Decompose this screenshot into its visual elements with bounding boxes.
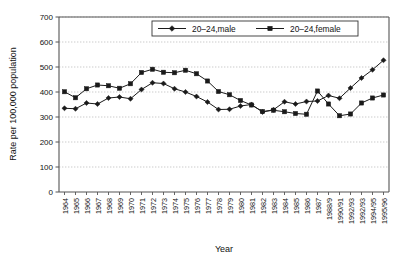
data-point-marker (348, 112, 352, 116)
data-point-marker (205, 79, 209, 83)
data-point-marker (315, 98, 320, 103)
x-tick-label: 1973 (160, 198, 169, 214)
x-tick-label: 1972 (149, 198, 158, 214)
y-tick-label: 700 (40, 13, 54, 22)
data-point-marker (73, 96, 77, 100)
data-point-marker (172, 71, 176, 75)
data-point-marker (359, 101, 363, 105)
data-point-marker (117, 86, 121, 90)
data-point-marker (194, 72, 198, 76)
x-tick-label: 1975 (182, 198, 191, 214)
x-tick-label: 1977 (204, 198, 213, 214)
x-tick-label: 1971 (138, 198, 147, 214)
data-point-marker (106, 95, 111, 100)
legend-label: 20–24,female (290, 24, 341, 34)
x-tick-label: 1984 (281, 198, 290, 214)
data-point-marker (161, 81, 166, 86)
x-tick-label: 1967 (94, 198, 103, 214)
data-point-marker (282, 110, 286, 114)
data-point-marker (106, 84, 110, 88)
data-point-marker (150, 67, 154, 71)
data-point-marker (183, 68, 187, 72)
y-tick-label: 500 (40, 63, 54, 72)
x-tick-label: 1990/91 (336, 198, 345, 224)
chart-figure: 0100200300400500600700 19641965196619671… (0, 0, 408, 267)
x-tick-label: 1965 (72, 198, 81, 214)
data-point-marker (183, 89, 188, 94)
x-tick-label: 1995/96 (380, 198, 389, 224)
data-point-marker (315, 89, 319, 93)
data-point-marker (249, 103, 253, 107)
data-point-marker (268, 26, 272, 30)
data-point-marker (216, 89, 220, 93)
legend-label: 20–24,male (192, 24, 236, 34)
data-point-marker (238, 103, 243, 108)
x-tick-label: 1992/93 (347, 198, 356, 224)
data-point-marker (95, 83, 99, 87)
x-axis-title: Year (215, 244, 233, 254)
data-point-marker (238, 98, 242, 102)
data-point-marker (227, 107, 232, 112)
data-point-marker (117, 94, 122, 99)
x-tick-label: 1986 (303, 198, 312, 214)
x-tick-label: 1988/9 (325, 198, 334, 220)
y-tick-label: 100 (40, 163, 54, 172)
x-tick-label: 1982 (259, 198, 268, 214)
x-tick-label: 1979 (226, 198, 235, 214)
data-point-marker (62, 90, 66, 94)
data-point-marker (73, 106, 78, 111)
y-tick-label: 0 (49, 188, 54, 197)
x-tick-label: 1970 (127, 198, 136, 214)
data-point-marker (293, 101, 298, 106)
x-tick-label: 1964 (61, 198, 70, 214)
data-point-marker (95, 101, 100, 106)
data-point-marker (62, 106, 67, 111)
x-tick-label: 1994/95 (369, 198, 378, 224)
x-tick-label: 1966 (83, 198, 92, 214)
y-axis-ticks: 0100200300400500600700 (40, 13, 59, 197)
data-point-marker (271, 108, 275, 112)
data-point-marker (304, 99, 309, 104)
x-tick-label: 1976 (193, 198, 202, 214)
line-chart: 0100200300400500600700 19641965196619671… (0, 0, 408, 267)
data-point-marker (194, 94, 199, 99)
data-point-marker (304, 112, 308, 116)
x-tick-label: 1974 (171, 198, 180, 214)
data-point-marker (84, 87, 88, 91)
data-point-marker (326, 93, 331, 98)
x-tick-label: 1981 (248, 198, 257, 214)
y-axis-title: Rate per 100,000 population (8, 47, 18, 161)
data-point-marker (227, 93, 231, 97)
y-tick-label: 600 (40, 38, 54, 47)
y-tick-label: 300 (40, 113, 54, 122)
x-tick-label: 1969 (116, 198, 125, 214)
data-point-marker (293, 111, 297, 115)
data-point-marker (172, 86, 177, 91)
data-point-marker (326, 102, 330, 106)
y-tick-label: 400 (40, 88, 54, 97)
x-tick-label: 1978 (215, 198, 224, 214)
data-point-marker (150, 80, 155, 85)
x-tick-label: 1983 (270, 198, 279, 214)
series-line (65, 69, 384, 116)
x-axis-ticks: 1964196519661967196819691970197119721973… (61, 192, 389, 224)
data-point-marker (161, 70, 165, 74)
x-tick-label: 1992/93 (358, 198, 367, 224)
data-point-marker (337, 114, 341, 118)
chart-legend: 20–24,male20–24,female (152, 21, 358, 36)
data-point-marker (370, 96, 374, 100)
gridlines (59, 17, 389, 167)
data-point-marker (139, 70, 143, 74)
data-point-marker (381, 93, 385, 97)
x-tick-label: 1980 (237, 198, 246, 214)
y-tick-label: 200 (40, 138, 54, 147)
data-point-marker (84, 100, 89, 105)
data-point-marker (128, 82, 132, 86)
x-tick-label: 1985 (292, 198, 301, 214)
x-tick-label: 1968 (105, 198, 114, 214)
x-tick-label: 1987 (314, 198, 323, 214)
series-female (62, 67, 385, 118)
axis-lines (59, 17, 389, 192)
data-point-marker (260, 109, 264, 113)
